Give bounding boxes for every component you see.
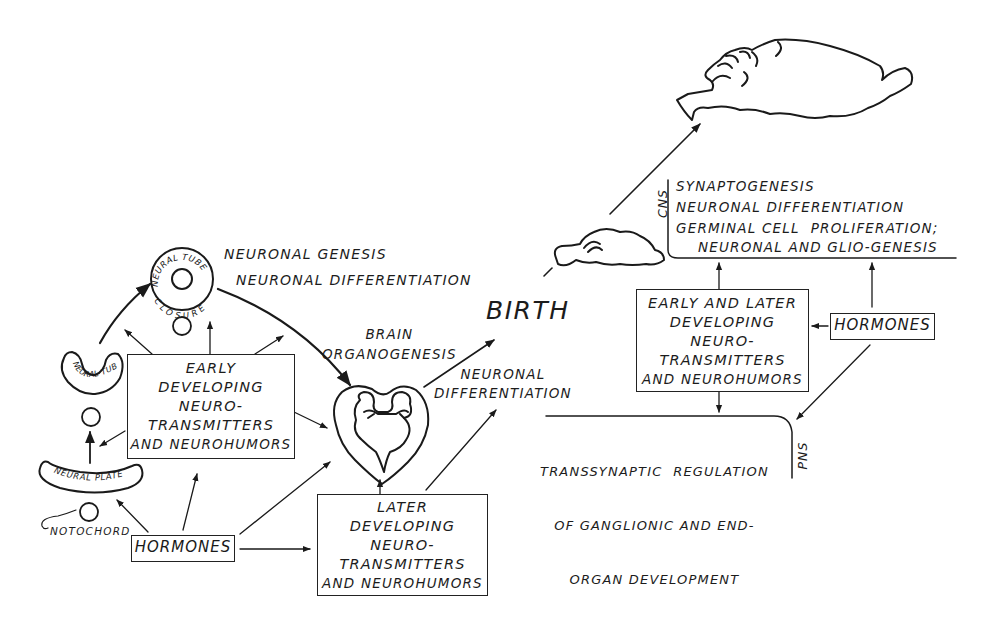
- early-later-box-line-1: EARLY AND LATER: [637, 294, 808, 313]
- later-box-line-2: DEVELOPING: [318, 517, 487, 536]
- brain-organogenesis-line-2: ORGANOGENESIS: [322, 344, 457, 364]
- svg-text:NEURAL PLATE: NEURAL PLATE: [53, 465, 125, 483]
- cns-item-germinal-cell-proliferation: GERMINAL CELL PROLIFERATION;: [676, 220, 939, 236]
- neuronal-differentiation-mid-line-2: DIFFERENTIATION: [434, 384, 572, 403]
- hormones-box-left: HORMONES: [131, 535, 235, 562]
- cns-item-neuronal-glio-genesis: NEURONAL AND GLIO-GENESIS: [698, 239, 938, 255]
- cns-item-neuronal-differentiation: NEURONAL DIFFERENTIATION: [676, 199, 904, 215]
- svg-text:NEURAL TUBE: NEURAL TUBE: [0, 0, 119, 379]
- neural-tube-label: NEURAL TUBE: [0, 0, 119, 379]
- later-box-line-5: AND NEUROHUMORS: [318, 574, 487, 593]
- pns-items: TRANSSYNAPTIC REGULATION OF GANGLIONIC A…: [540, 427, 769, 607]
- early-box-line-5: AND NEUROHUMORS: [128, 435, 294, 454]
- later-box-line-3: NEURO-: [318, 536, 487, 555]
- adult-brain-icon: [677, 40, 912, 120]
- neural-tube-closure-label-bottom: CLOSURE: [152, 296, 207, 320]
- neuronal-genesis-label: NEURONAL GENESIS: [224, 246, 387, 262]
- brain-organogenesis-label: BRAIN ORGANOGENESIS: [322, 324, 457, 364]
- early-and-later-developing-box: EARLY AND LATER DEVELOPING NEURO- TRANSM…: [636, 289, 809, 392]
- early-later-box-line-3: NEURO-: [637, 332, 808, 351]
- pns-label: PNS: [795, 436, 810, 476]
- early-box-line-4: TRANSMITTERS: [128, 416, 294, 435]
- neonatal-brain-icon: [555, 229, 664, 265]
- birth-label: BIRTH: [486, 296, 569, 325]
- early-box-line-1: EARLY: [128, 359, 294, 378]
- early-later-box-line-4: TRANSMITTERS: [637, 351, 808, 370]
- later-box-line-4: TRANSMITTERS: [318, 555, 487, 574]
- hormones-box-right: HORMONES: [830, 313, 935, 340]
- pns-item-line-3: ORGAN DEVELOPMENT: [540, 571, 769, 589]
- early-later-box-line-2: DEVELOPING: [637, 313, 808, 332]
- early-developing-box: EARLY DEVELOPING NEURO- TRANSMITTERS AND…: [127, 354, 295, 459]
- neural-plate-label: NEURAL PLATE: [53, 465, 125, 483]
- neuronal-differentiation-top-label: NEURONAL DIFFERENTIATION: [236, 272, 472, 288]
- later-box-line-1: LATER: [318, 498, 487, 517]
- cns-item-synaptogenesis: SYNAPTOGENESIS: [676, 178, 815, 194]
- later-developing-box: LATER DEVELOPING NEURO- TRANSMITTERS AND…: [317, 494, 488, 596]
- early-box-line-2: DEVELOPING: [128, 378, 294, 397]
- pns-item-line-1: TRANSSYNAPTIC REGULATION: [540, 463, 769, 481]
- svg-text:CLOSURE: CLOSURE: [152, 296, 207, 320]
- neuronal-differentiation-mid-label: NEURONAL DIFFERENTIATION: [434, 365, 572, 403]
- embryonic-brain-icon: [334, 386, 428, 484]
- early-later-box-line-5: AND NEUROHUMORS: [637, 370, 808, 389]
- early-box-line-3: NEURO-: [128, 397, 294, 416]
- neuronal-differentiation-mid-line-1: NEURONAL: [434, 365, 572, 384]
- pns-item-line-2: OF GANGLIONIC AND END-: [540, 517, 769, 535]
- cns-label: CNS: [655, 184, 670, 224]
- notochord-label: NOTOCHORD: [50, 525, 130, 537]
- brain-organogenesis-line-1: BRAIN: [322, 324, 457, 344]
